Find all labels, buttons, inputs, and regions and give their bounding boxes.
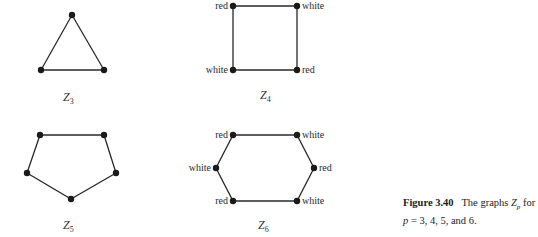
z6-node-right (311, 165, 317, 171)
z4-label-top-left: red (215, 0, 228, 11)
z6-label-top-left: red (215, 129, 228, 140)
z6-label-bottom-left: red (215, 195, 228, 206)
z4-node-bottom-right (294, 67, 300, 73)
z6-node-top-right (294, 132, 300, 138)
z6-node-top-left (230, 132, 236, 138)
graph-z5 (24, 132, 119, 202)
z4-label-bottom-left: white (206, 64, 229, 75)
z6-label-left: white (189, 162, 212, 173)
z6-label-bottom-right: white (302, 195, 325, 206)
z4-label-top-right: white (302, 0, 325, 11)
z4-label-bottom-right: red (302, 64, 315, 75)
z3-node-top (69, 12, 75, 18)
z6-node-bottom-right (294, 198, 300, 204)
z6-node-left (213, 165, 219, 171)
z5-title: Z5 (63, 218, 74, 234)
figure-caption: Figure 3.40 The graphs Zp for p = 3, 4, … (403, 196, 538, 227)
z5-node-1 (37, 132, 43, 138)
z5-node-4 (68, 196, 74, 202)
z3-node-bottom-left (38, 67, 44, 73)
z5-node-5 (24, 170, 30, 176)
z4-node-top-right (294, 3, 300, 9)
z4-title: Z4 (260, 88, 271, 104)
graph-z3 (38, 12, 107, 73)
z5-node-3 (113, 170, 119, 176)
z4-node-bottom-left (230, 67, 236, 73)
z5-node-2 (101, 132, 107, 138)
z3-title: Z3 (63, 90, 74, 106)
figure-number: Figure 3.40 (403, 197, 454, 208)
graph-z6: red white white red red white (189, 129, 332, 206)
graph-z4: red white white red (206, 0, 325, 75)
z4-node-top-left (230, 3, 236, 9)
z6-node-bottom-left (230, 198, 236, 204)
z3-node-bottom-right (101, 67, 107, 73)
z6-label-right: red (319, 162, 332, 173)
z6-label-top-right: white (302, 129, 325, 140)
z6-title: Z6 (258, 218, 269, 234)
